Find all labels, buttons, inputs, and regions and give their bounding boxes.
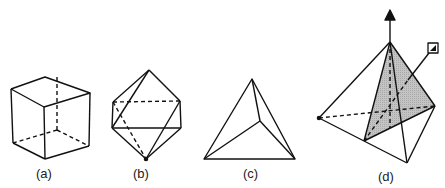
polyhedra-figure [0, 0, 445, 188]
panel-label-a: (a) [36, 166, 52, 181]
panel-label-b: (b) [133, 166, 149, 181]
two-fold-axis [408, 53, 429, 80]
triangle-symbol-icon [385, 10, 395, 20]
cube-diagram [11, 77, 90, 159]
panel-label-d: (d) [378, 169, 394, 184]
panel-label-c: (c) [243, 166, 258, 181]
octahedron-diagram [112, 70, 181, 161]
tetrahedron-diagram [204, 79, 295, 159]
tetrahedron-symmetry-diagram [317, 10, 438, 163]
